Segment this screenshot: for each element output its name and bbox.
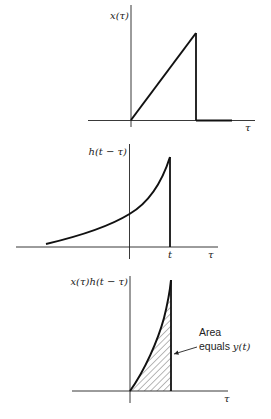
y-axis-label: x(τ)h(t − τ) xyxy=(70,276,128,287)
annotation-equals-label: equals y(t) xyxy=(199,340,250,352)
annotation-area-label: Area xyxy=(199,326,221,338)
annotation-y-t: y(t) xyxy=(232,341,251,352)
convolution-diagram: x(τ) τ h(t − τ) t τ x(τ)h(t − τ) τ Area … xyxy=(0,0,271,419)
x-axis-label: τ xyxy=(224,393,230,404)
panel-product: x(τ)h(t − τ) τ Area equals y(t) xyxy=(70,276,250,404)
annotation-arrow xyxy=(174,347,197,354)
t-tick-label: t xyxy=(168,249,173,260)
exponential-curve xyxy=(46,157,170,244)
y-axis-label: x(τ) xyxy=(110,10,129,21)
x-axis-label: τ xyxy=(245,122,251,133)
y-axis-label: h(t − τ) xyxy=(88,146,127,157)
annotation-equals-text: equals xyxy=(199,340,233,352)
panel-x-tau: x(τ) τ xyxy=(88,5,255,133)
panel-h-t-minus-tau: h(t − τ) t τ xyxy=(16,144,218,260)
x-axis-label: τ xyxy=(208,249,214,260)
hatched-area xyxy=(130,280,171,391)
ramp-signal-curve xyxy=(131,33,196,120)
